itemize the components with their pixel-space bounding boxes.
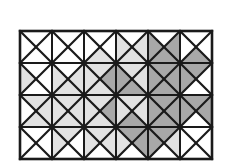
triangular-grid-svg [0,0,232,166]
quilt-pattern-figure [0,0,232,166]
